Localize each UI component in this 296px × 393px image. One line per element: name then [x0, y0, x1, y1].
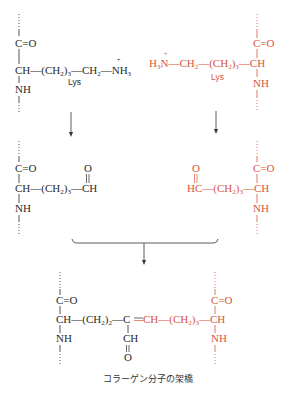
amide-nh-text: NH	[253, 202, 269, 214]
reaction-arrow-left	[69, 112, 73, 137]
amide-nh-text: NH	[15, 202, 31, 214]
positive-charge: +	[117, 57, 121, 63]
branch-ch-text: CH	[123, 332, 138, 344]
carbonyl-text: C=O	[253, 162, 275, 174]
amide-nh-text: NH	[253, 77, 269, 89]
amide-nh-text: NH	[15, 83, 31, 95]
figure-caption: コラーゲン分子の架橋	[103, 373, 193, 384]
residue-label-lys: Lys	[211, 72, 224, 82]
lys-left-structure: C=O CH—(CH2)3—CH2—NH3 + Lys NH	[15, 14, 132, 114]
right-carbonyl-text: C=O	[211, 294, 233, 306]
merge-bracket-arrow	[72, 239, 218, 265]
aldehyde-oxygen-text: O	[192, 162, 200, 174]
amine-chain-text: H3N—CH2—(CH2)3—CH	[149, 57, 265, 71]
allysine-right-structure: C=O O HC—(CH2)3—CH NH	[187, 141, 275, 234]
aldehyde-chain-text: HC—(CH2)3—CH	[187, 182, 269, 196]
collagen-crosslink-diagram: C=O CH—(CH2)3—CH2—NH3 + Lys NH C=O H3N—C…	[0, 0, 296, 393]
left-amide-nh-text: NH	[56, 332, 72, 344]
allysine-left-structure: C=O CH—(CH2)3—CH O NH	[15, 141, 97, 234]
reaction-arrow-right	[214, 111, 218, 134]
carbonyl-text: C=O	[15, 37, 37, 49]
carbonyl-text: C=O	[15, 162, 37, 174]
alpha-ch-chain-text: CH—(CH2)3—CH	[15, 182, 97, 196]
left-carbonyl-text: C=O	[56, 294, 78, 306]
aldehyde-oxygen-text: O	[84, 162, 92, 174]
right-chain-text: CH—(CH2)3—CH	[143, 313, 225, 327]
lys-right-structure: C=O H3N—CH2—(CH2)3—CH + Lys NH	[149, 14, 275, 110]
left-chain-text: CH—(CH2)2—C	[56, 313, 130, 327]
right-amide-nh-text: NH	[211, 332, 227, 344]
residue-label-lys: Lys	[68, 77, 81, 87]
branch-oxygen-text: O	[124, 351, 132, 363]
alpha-ch-text: CH—(CH2)3—CH2—NH3	[15, 64, 132, 78]
carbonyl-text: C=O	[253, 37, 275, 49]
crosslink-product-structure: C=O CH—(CH2)2—C NH CH O CH—(CH2)3—CH	[56, 272, 233, 364]
